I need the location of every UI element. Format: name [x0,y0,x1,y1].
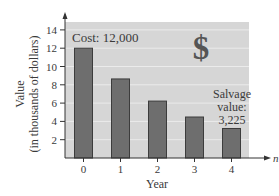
y-tick-label: 6 [52,97,58,109]
bar-year-0 [75,48,93,158]
bar-year-4 [223,128,241,158]
x-tick-label: 3 [192,163,198,175]
y-tick-label: 10 [46,61,58,73]
x-tick-label: 1 [118,163,124,175]
salvage-annotation-line2: value: [217,100,246,114]
bar-year-1 [112,79,130,158]
y-tick-label: 2 [52,134,58,146]
bar-year-3 [186,117,204,158]
y-axis-arrow-icon [63,12,68,19]
y-tick-label: 8 [52,79,58,91]
salvage-annotation-line1: Salvage [213,87,251,101]
x-axis-variable: n [273,152,279,164]
y-axis-subtitle: (in thousands of dollars) [27,36,41,153]
x-tick-label: 4 [229,163,235,175]
y-tick-label: 14 [46,24,58,36]
y-tick-label: 12 [46,42,57,54]
x-tick-label: 2 [155,163,161,175]
cost-annotation: Cost: 12,000 [72,30,138,45]
salvage-annotation-line3: 3,225 [219,113,246,127]
bar-year-2 [149,101,167,158]
y-tick-label: 4 [52,115,58,127]
x-tick-label: 0 [81,163,87,175]
x-axis-arrow-icon [264,156,271,161]
dollar-sign-icon: $ [193,30,210,66]
bar-chart: 246810121401234 Cost: 12,000 $ Salvage v… [0,0,279,196]
x-axis-title: Year [146,177,168,191]
y-axis-title: Value [13,80,27,107]
